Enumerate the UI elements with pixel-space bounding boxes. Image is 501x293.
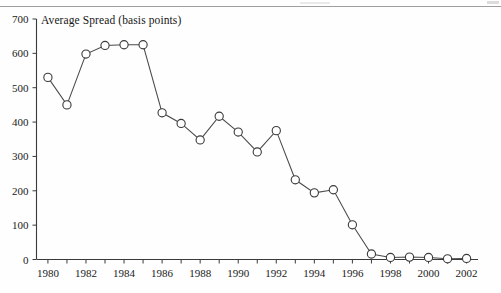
x-tick-label: 1990 (227, 267, 250, 279)
y-tick-label: 400 (12, 116, 29, 128)
data-series-average-spread (44, 41, 471, 263)
series-data-point (120, 41, 128, 49)
series-data-point (348, 221, 356, 229)
series-data-point (405, 253, 413, 261)
y-tick-label: 500 (12, 82, 29, 94)
x-tick-label: 1992 (265, 267, 287, 279)
series-data-point (101, 41, 109, 49)
chart-axes (37, 19, 479, 260)
x-tick-label: 1996 (341, 267, 364, 279)
series-data-point (310, 189, 318, 197)
series-data-point (44, 73, 52, 81)
x-tick-label: 2002 (456, 267, 478, 279)
series-data-point (82, 50, 90, 58)
series-data-point (329, 186, 337, 194)
x-axis-ticks (48, 260, 467, 264)
x-tick-label: 1982 (75, 267, 97, 279)
y-tick-label: 600 (12, 47, 29, 59)
series-data-point (63, 101, 71, 109)
x-tick-label: 1984 (113, 267, 136, 279)
y-tick-label: 700 (12, 13, 29, 25)
series-data-point (367, 250, 375, 258)
series-data-point (158, 109, 166, 117)
chart-figure: Average Spread (basis points) 0100200300… (0, 0, 501, 293)
series-markers (44, 41, 471, 263)
y-tick-label: 200 (12, 185, 29, 197)
x-axis-labels: 1980198219841986198819901992199419961998… (37, 267, 478, 279)
series-data-point (462, 254, 470, 262)
series-data-point (386, 253, 394, 261)
x-tick-label: 1980 (37, 267, 60, 279)
y-axis-labels: 0100200300400500600700 (12, 13, 29, 266)
chart-plot-area: 0100200300400500600700 19801982198419861… (0, 0, 501, 293)
x-tick-label: 1994 (303, 267, 326, 279)
x-tick-label: 2000 (418, 267, 441, 279)
x-tick-label: 1986 (151, 267, 174, 279)
series-data-point (177, 119, 185, 127)
series-data-point (139, 41, 147, 49)
series-data-point (272, 127, 280, 135)
y-tick-label: 300 (12, 150, 29, 162)
y-tick-label: 100 (12, 219, 29, 231)
series-data-point (291, 176, 299, 184)
x-tick-label: 1998 (379, 267, 402, 279)
series-data-point (196, 136, 204, 144)
series-data-point (215, 112, 223, 120)
y-axis-ticks (33, 19, 37, 260)
y-tick-label: 0 (23, 254, 29, 266)
series-data-point (443, 255, 451, 263)
series-data-point (253, 148, 261, 156)
series-data-point (234, 128, 242, 136)
x-tick-label: 1988 (189, 267, 212, 279)
series-data-point (424, 253, 432, 261)
